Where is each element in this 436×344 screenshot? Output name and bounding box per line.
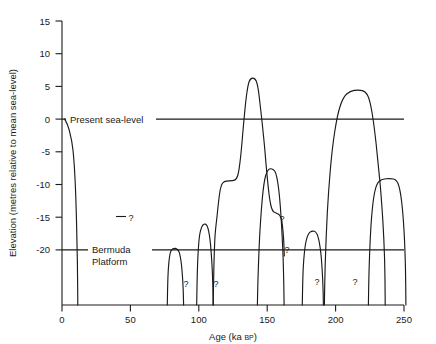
y-ticks-group: 15 10 5 0 -5 -10 -15 -20 [36, 16, 62, 256]
curve-mis-5e-main-highstand-125ka [213, 78, 284, 305]
x-axis-title-main: Age (ka [209, 331, 244, 342]
bermuda-platform-label-line2: Platform [92, 256, 127, 267]
annotations-group: ? ? ? ? ? ? ? [116, 213, 358, 290]
y-axis-title: Elevation (metres relative to mean sea-l… [7, 69, 18, 257]
bermuda-platform-label-line1: Bermuda [92, 244, 131, 255]
y-tick-label-neg10: -10 [36, 179, 50, 190]
sea-level-curve-figure: 15 10 5 0 -5 -10 -15 -20 0 50 100 150 20… [0, 0, 436, 344]
svg-text:Age (ka BP): Age (ka BP) [209, 331, 257, 342]
x-tick-label-250: 250 [396, 314, 412, 325]
curve-holocene-highstand [65, 119, 78, 305]
x-ticks-group: 0 50 100 150 200 250 [59, 305, 412, 325]
y-tick-label-neg20: -20 [36, 244, 50, 255]
curve-highstand-233ka [368, 179, 406, 305]
x-axis-title: Age (ka BP) [209, 331, 257, 342]
reference-lines-group: Present sea-level Bermuda Platform [62, 112, 404, 271]
question-mark-136ka: ? [284, 245, 289, 255]
x-tick-label-0: 0 [59, 314, 64, 325]
question-mark-80ka: ? [183, 279, 188, 289]
question-mark-184ka: ? [314, 277, 319, 287]
curve-mis-5c-highstand-102ka [197, 224, 214, 305]
uncertainty-dash-question: ? [129, 213, 134, 223]
question-mark-213ka: ? [352, 277, 357, 287]
question-mark-104ka: ? [213, 279, 218, 289]
chart-svg: 15 10 5 0 -5 -10 -15 -20 0 50 100 150 20… [0, 0, 436, 344]
curve-highstand-180ka [302, 231, 323, 305]
x-tick-label-200: 200 [328, 314, 344, 325]
curve-mis-7-highstand-202ka [324, 90, 385, 305]
y-tick-label-0: 0 [45, 114, 50, 125]
x-tick-label-150: 150 [259, 314, 275, 325]
x-axis-title-smallcaps: BP [244, 334, 254, 341]
x-axis-title-close: ) [254, 331, 257, 342]
y-tick-label-10: 10 [39, 48, 50, 59]
x-tick-label-100: 100 [191, 314, 207, 325]
question-mark-130ka: ? [279, 214, 284, 224]
y-tick-label-5: 5 [45, 81, 50, 92]
y-tick-label-neg5: -5 [42, 146, 50, 157]
present-sea-level-label: Present sea-level [70, 114, 143, 125]
curve-mis-6-lowstand-145ka [257, 169, 284, 305]
curve-mis-5a-highstand-80ka [167, 248, 183, 305]
y-tick-label-15: 15 [39, 16, 50, 27]
x-tick-label-50: 50 [125, 314, 136, 325]
y-tick-label-neg15: -15 [36, 212, 50, 223]
